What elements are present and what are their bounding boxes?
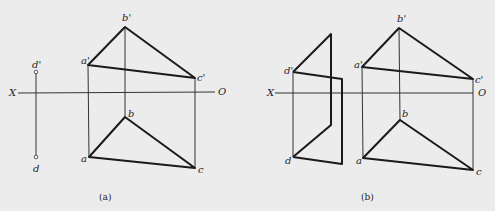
label-b-b: b xyxy=(402,108,408,119)
x-label-a: X xyxy=(8,87,17,98)
x-axis-a xyxy=(18,92,215,93)
caption-b: (b) xyxy=(361,192,374,202)
label-c-a: c xyxy=(198,164,204,175)
label-a-b: a xyxy=(356,155,362,166)
label-c-b: c xyxy=(476,166,482,177)
diagram-canvas: X O d' d b' a' c' b a c (a) X O d' d xyxy=(0,0,495,211)
top-view-triangle-b xyxy=(363,120,473,170)
figure-a: X O d' d b' a' c' b a c (a) xyxy=(8,12,226,202)
caption-a: (a) xyxy=(99,192,111,202)
label-c-prime-b: c' xyxy=(475,74,483,85)
label-d-b: d xyxy=(285,155,291,166)
o-label-b: O xyxy=(478,87,486,98)
o-label-a: O xyxy=(218,86,226,97)
plane-thick-edge-left xyxy=(293,34,331,157)
projector-b-b xyxy=(399,28,400,120)
figure-b: X O d' d b' a' c' b a c (b) xyxy=(266,13,486,202)
x-label-b: X xyxy=(266,87,275,98)
label-b-prime-a: b' xyxy=(122,12,131,23)
label-d-prime-b: d' xyxy=(284,65,293,76)
label-d-prime-a: d' xyxy=(32,59,41,70)
label-b-a: b xyxy=(128,108,134,119)
top-view-triangle-a xyxy=(89,117,195,168)
label-a-a: a xyxy=(81,153,87,164)
projector-a-b xyxy=(362,67,363,158)
label-b-prime-b: b' xyxy=(397,13,406,24)
point-d-prime xyxy=(34,70,38,74)
front-view-triangle-a xyxy=(88,27,195,78)
label-a-prime-b: a' xyxy=(354,59,363,70)
projection-diagram: X O d' d b' a' c' b a c (a) X O d' d xyxy=(0,0,495,211)
label-a-prime-a: a' xyxy=(81,55,90,66)
label-c-prime-a: c' xyxy=(197,72,205,83)
point-d xyxy=(34,155,38,159)
label-d-a: d xyxy=(33,163,39,174)
projector-a xyxy=(88,65,89,157)
front-view-triangle-b xyxy=(362,28,473,79)
